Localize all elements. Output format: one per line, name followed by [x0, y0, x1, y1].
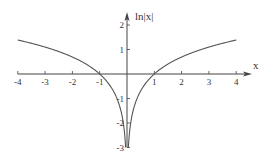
ln-abs-x-chart: -4-3-2-11234-3-2-112xln|x| [0, 0, 268, 155]
curve-negative-x [18, 40, 126, 147]
x-tick-label: -1 [96, 77, 104, 87]
x-tick-label: -2 [69, 77, 77, 87]
x-tick-label: -3 [41, 77, 49, 87]
y-tick-label: 2 [120, 20, 125, 30]
labels: -4-3-2-11234-3-2-112xln|x| [14, 10, 259, 153]
y-tick-label: -2 [117, 118, 125, 128]
y-tick-label: 1 [120, 45, 125, 55]
x-tick-label: 1 [152, 77, 157, 87]
y-tick-label: -3 [117, 143, 125, 153]
x-tick-label: -4 [14, 77, 22, 87]
y-tick-label: -1 [117, 94, 125, 104]
x-tick-label: 2 [179, 77, 184, 87]
curve-positive-x [128, 40, 236, 147]
x-tick-label: 3 [207, 77, 212, 87]
x-tick-label: 4 [234, 77, 239, 87]
x-axis-title: x [253, 59, 259, 71]
y-axis-title: ln|x| [135, 10, 153, 22]
axes [18, 12, 252, 148]
